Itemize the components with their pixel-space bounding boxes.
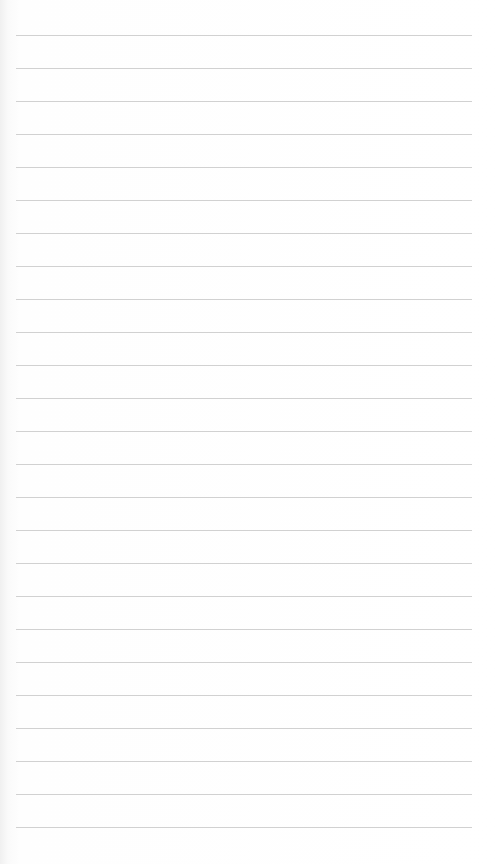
ruled-line: [16, 68, 472, 69]
ruled-line: [16, 794, 472, 795]
ruled-line: [16, 101, 472, 102]
ruled-line: [16, 365, 472, 366]
ruled-line: [16, 266, 472, 267]
ruled-line: [16, 629, 472, 630]
ruled-line: [16, 200, 472, 201]
ruled-line: [16, 431, 472, 432]
ruled-line: [16, 35, 472, 36]
ruled-line: [16, 332, 472, 333]
ruled-line: [16, 398, 472, 399]
ruled-line: [16, 299, 472, 300]
ruled-line: [16, 530, 472, 531]
ruled-line: [16, 497, 472, 498]
ruled-line: [16, 233, 472, 234]
ruled-line: [16, 167, 472, 168]
ruled-line: [16, 827, 472, 828]
lined-paper: [0, 0, 503, 864]
ruled-line: [16, 662, 472, 663]
ruled-line: [16, 134, 472, 135]
ruled-line: [16, 596, 472, 597]
ruled-line: [16, 761, 472, 762]
ruled-line: [16, 728, 472, 729]
ruled-line: [16, 563, 472, 564]
ruled-line: [16, 695, 472, 696]
ruled-line: [16, 464, 472, 465]
